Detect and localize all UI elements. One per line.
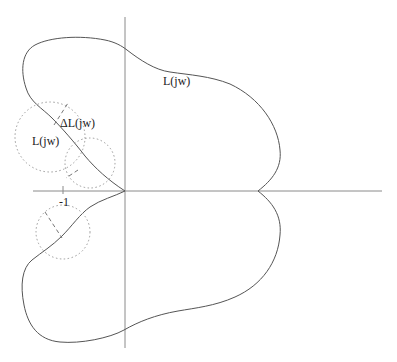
- nyquist-curve-lower: [22, 191, 280, 342]
- uncertainty-disk-small: [65, 138, 115, 188]
- curve-label-upper: L(jw): [163, 74, 190, 88]
- nyquist-curve-upper: [23, 37, 280, 191]
- uncertainty-radius-lower: [45, 212, 62, 238]
- curve-label-point: L(jw): [32, 134, 59, 148]
- uncertainty-radius-small: [66, 170, 78, 178]
- uncertainty-label: ΔL(jw): [60, 116, 95, 130]
- nyquist-diagram: L(jw) L(jw) ΔL(jw) -1: [0, 0, 397, 362]
- critical-point-label: -1: [59, 195, 69, 209]
